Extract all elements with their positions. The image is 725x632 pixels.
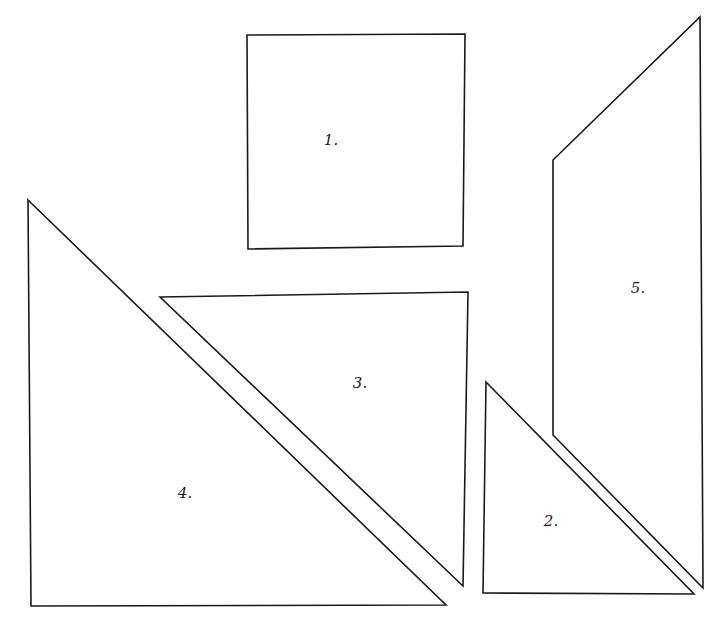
piece-1-label: 1.	[324, 131, 338, 149]
puzzle-diagram	[0, 0, 725, 632]
piece-5-label: 5.	[631, 279, 645, 297]
piece-4-label: 4.	[178, 484, 192, 502]
piece-3-label: 3.	[353, 374, 367, 392]
piece-1-square	[247, 34, 465, 249]
piece-2-label: 2.	[544, 512, 558, 530]
